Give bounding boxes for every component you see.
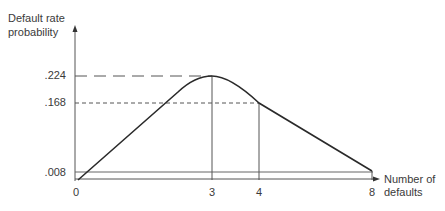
ytick-008: .008 xyxy=(20,166,66,179)
ytick-168: .168 xyxy=(20,96,66,109)
xtick-3: 3 xyxy=(209,186,215,199)
xtick-8: 8 xyxy=(369,186,375,199)
y-axis-title-line2: probability xyxy=(8,26,58,39)
y-axis-arrow-icon xyxy=(73,25,78,32)
x-axis-title-line2: defaults xyxy=(384,186,423,199)
ytick-224: .224 xyxy=(20,69,66,82)
xtick-4: 4 xyxy=(256,186,262,199)
x-axis-arrow-icon xyxy=(373,177,380,182)
probability-curve xyxy=(78,76,372,180)
chart-canvas xyxy=(0,0,445,211)
x-axis-title-line1: Number of xyxy=(384,173,435,186)
xtick-0: 0 xyxy=(73,186,79,199)
y-axis-title-line1: Default rate xyxy=(8,12,65,25)
